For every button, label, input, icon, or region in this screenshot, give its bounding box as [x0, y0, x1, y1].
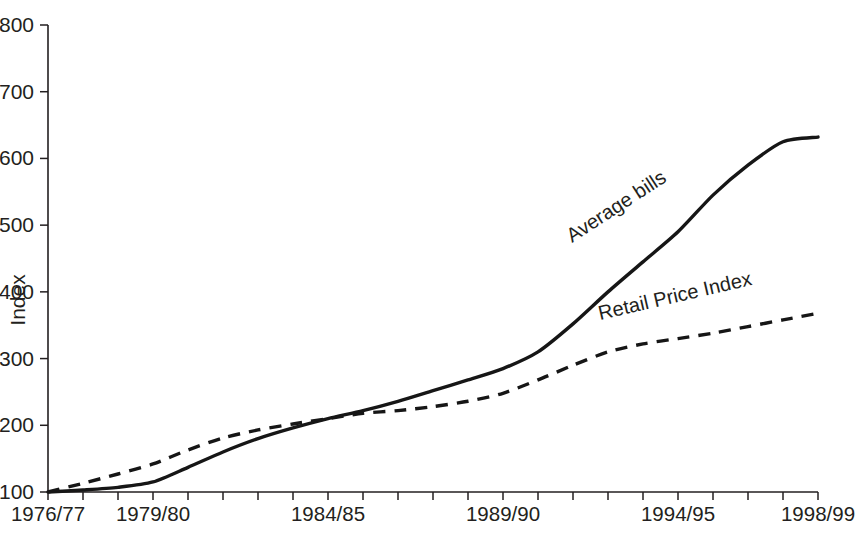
x-axis: 1976/771979/801984/851989/901994/951998/… — [11, 492, 855, 525]
line-chart: 100200300400500600700800 1976/771979/801… — [0, 0, 860, 536]
y-tick-label: 100 — [0, 480, 34, 503]
x-tick-label: 1989/90 — [466, 502, 540, 525]
y-tick-label: 500 — [0, 213, 34, 236]
chart-container: 100200300400500600700800 1976/771979/801… — [0, 0, 860, 536]
series-lines — [48, 137, 818, 492]
y-tick-label: 600 — [0, 146, 34, 169]
y-tick-label: 200 — [0, 413, 34, 436]
y-axis: 100200300400500600700800 — [0, 13, 48, 503]
series-line-solid — [48, 137, 818, 492]
series-annotations: Average billsRetail Price Index — [562, 166, 753, 324]
x-tick-label: 1984/85 — [291, 502, 365, 525]
x-tick-label: 1998/99 — [781, 502, 855, 525]
x-tick-label: 1994/95 — [641, 502, 715, 525]
y-tick-label: 800 — [0, 13, 34, 36]
series-line-dashed — [48, 313, 818, 492]
x-tick-label: 1979/80 — [116, 502, 190, 525]
y-tick-label: 300 — [0, 347, 34, 370]
x-tick-label: 1976/77 — [11, 502, 85, 525]
y-tick-label: 700 — [0, 80, 34, 103]
series-label-average-bills: Average bills — [562, 166, 670, 247]
y-axis-title: Index — [6, 274, 29, 326]
series-label-retail-price-index: Retail Price Index — [596, 267, 754, 324]
